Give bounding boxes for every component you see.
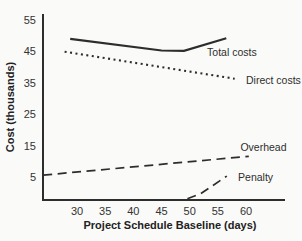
x-tick-label-50: 50 <box>184 205 196 217</box>
y-tick-label-15: 15 <box>24 140 36 152</box>
chart-canvas: 3035404550556051525354555Total costsDire… <box>0 0 302 241</box>
series-label-total-costs: Total costs <box>207 46 257 58</box>
series-line-overhead <box>43 156 249 175</box>
x-tick-label-35: 35 <box>99 205 111 217</box>
y-tick-label-55: 55 <box>24 14 36 26</box>
x-tick-label-45: 45 <box>155 205 167 217</box>
series-line-total-costs <box>70 38 226 51</box>
y-tick-label-35: 35 <box>24 77 36 89</box>
series-label-direct-costs: Direct costs <box>246 74 301 86</box>
x-tick-label-40: 40 <box>127 205 139 217</box>
y-tick-label-25: 25 <box>24 108 36 120</box>
y-tick-label-45: 45 <box>24 45 36 57</box>
y-axis-title: Cost (thousands) <box>4 62 16 152</box>
series-line-penalty <box>187 176 226 199</box>
series-label-overhead: Overhead <box>240 141 286 153</box>
cost-schedule-chart: 3035404550556051525354555Total costsDire… <box>0 0 302 241</box>
x-tick-label-60: 60 <box>240 205 252 217</box>
x-tick-label-30: 30 <box>71 205 83 217</box>
x-axis-title: Project Schedule Baseline (days) <box>43 219 297 231</box>
y-tick-label-5: 5 <box>30 171 36 183</box>
x-tick-label-55: 55 <box>212 205 224 217</box>
series-label-penalty: Penalty <box>238 171 274 183</box>
